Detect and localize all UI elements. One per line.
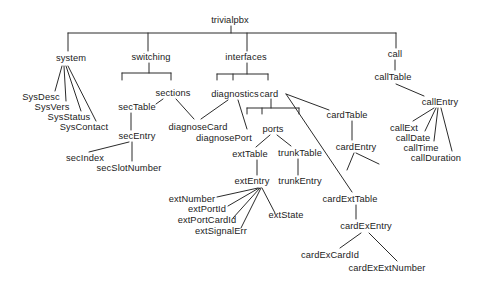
node-cardTable: cardTable	[326, 110, 367, 120]
node-sections: sections	[156, 88, 191, 98]
node-cardEntry: cardEntry	[336, 142, 377, 152]
node-callExt: callExt	[390, 123, 418, 133]
node-callDuration: callDuration	[411, 153, 461, 163]
node-secEntry: secEntry	[119, 131, 156, 141]
edge-cardExEntry-cardExCardId	[340, 233, 361, 248]
edge-secEntry-secIndex	[89, 142, 129, 152]
node-extSignalErr: extSignalErr	[195, 226, 247, 236]
node-ports: ports	[262, 124, 283, 134]
edge-diagnostics-diagnosePort	[238, 100, 247, 129]
edge-system-sysDesc	[55, 66, 62, 91]
node-card: card	[260, 89, 279, 99]
node-cardExCardId: cardExCardId	[301, 250, 359, 260]
edge-cardEntry-fan-left	[347, 153, 354, 170]
node-diagnoseCard: diagnoseCard	[168, 122, 227, 132]
node-call: call	[388, 49, 402, 59]
node-trunkEntry: trunkEntry	[278, 176, 321, 186]
edge-callEntry-callDuration	[441, 108, 452, 151]
edge-system-sysVers	[64, 66, 66, 101]
node-diagnosePort: diagnosePort	[196, 133, 252, 143]
edge-callEntry-callDate	[425, 108, 436, 131]
edge-ports-trunkTable	[277, 135, 291, 146]
edge-sections-diagnoseCard	[176, 99, 194, 119]
node-secTable: secTable	[118, 102, 156, 112]
node-callTable: callTable	[374, 72, 411, 82]
node-callTime: callTime	[403, 143, 438, 153]
edge-cardExEntry-cardExExtNumber	[369, 233, 397, 261]
node-extPortId: extPortId	[188, 204, 226, 214]
node-secSlotNumber: secSlotNumber	[97, 163, 162, 173]
node-switching: switching	[131, 52, 170, 62]
edge-callTable-callEntry	[396, 84, 424, 96]
node-callEntry: callEntry	[422, 97, 459, 107]
node-sysDesc: SysDesc	[22, 92, 59, 102]
node-system: system	[56, 53, 86, 63]
edge-cardEntry-fan-right	[356, 153, 379, 164]
node-cardExEntry: cardExEntry	[340, 221, 392, 231]
edge-extEntry-extSignalErr	[241, 188, 261, 228]
node-trivialpbx: trivialpbx	[211, 15, 249, 25]
node-sysContact: SysContact	[60, 122, 109, 132]
node-extState: extState	[269, 210, 304, 220]
node-interfaces: interfaces	[225, 52, 266, 62]
node-extNumber: extNumber	[169, 194, 215, 204]
node-extEntry: extEntry	[235, 176, 270, 186]
node-cardExtTable: cardExtTable	[323, 194, 378, 204]
node-secIndex: secIndex	[66, 153, 104, 163]
edge-diagnostics-diagnoseCard	[201, 100, 228, 119]
node-extPortCardId: extPortCardId	[178, 215, 237, 225]
edge-ports-extTable	[256, 135, 270, 147]
node-sysVers: SysVers	[35, 102, 70, 112]
node-cardExExtNumber: cardExExtNumber	[349, 263, 426, 273]
edge-sections-secTable	[156, 99, 163, 104]
mib-tree-diagram: trivialpbxsystemswitchinginterfacescallS…	[0, 0, 484, 284]
edge-callEntry-callTime	[434, 108, 438, 141]
node-extTable: extTable	[232, 149, 267, 159]
node-sysStatus: SysStatus	[48, 112, 91, 122]
node-callDate: callDate	[396, 133, 430, 143]
node-trunkTable: trunkTable	[278, 148, 322, 158]
node-diagnostics: diagnostics	[211, 89, 259, 99]
